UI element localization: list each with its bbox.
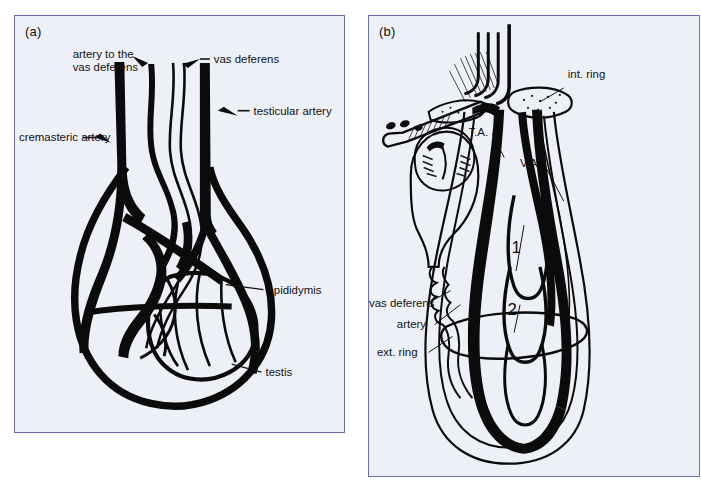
retractor-instrument [464,24,509,104]
panel-a: (a) [14,15,345,433]
label-artery-b: artery [397,319,426,331]
testicular-artery-loop [524,406,566,454]
internal-ring-stipple [523,94,561,111]
vas-deferens-convoluted-b [430,267,461,398]
testis-septum-2 [221,277,235,362]
label-vas-deferens: vas deferens [214,53,280,65]
retractor-tine-1 [464,32,478,94]
arrow-testicular-artery [218,107,238,116]
panel-b: (b) [368,15,700,477]
label-vas-deferens-line2: vas deferens [73,61,139,73]
panel-b-illustration: int. ring T.A. V.A. 1 2 vas deferens art… [369,16,699,476]
label-ta: T.A. [468,126,488,138]
appendix-testis-blobs [385,119,423,132]
label-artery-to-the: artery to the [73,48,134,60]
figure-page: (a) [0,0,701,490]
epididymis-coil [427,142,445,152]
label-vas-deferens-b: vas deferens [369,297,435,309]
label-ext-ring: ext. ring [377,346,418,358]
label-va: V.A. [520,157,541,169]
label-testicular-artery: testicular artery [254,105,332,117]
label-testis: testis [265,366,292,378]
testicular-artery-vessel [200,63,217,238]
label-cremasteric-artery: cremasteric artery [19,132,111,144]
epididymis-median-fold [443,148,446,180]
panel-a-illustration: artery to the vas deferens vas deferens … [15,16,344,432]
testis-septum-1 [197,273,210,366]
label-num1: 1 [511,238,520,257]
label-int-ring: int. ring [568,68,605,80]
label-num2: 2 [507,300,516,319]
label-epididymis: epididymis [267,284,321,296]
